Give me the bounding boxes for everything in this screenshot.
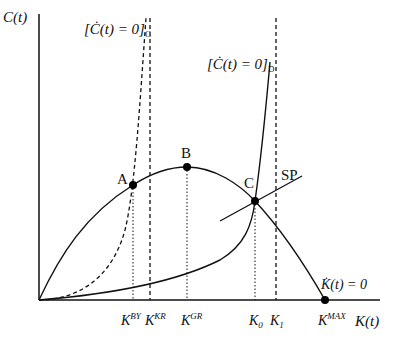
tick-k-max: KMAX xyxy=(317,311,346,328)
saddle-path-label: SP xyxy=(281,167,298,183)
c-dot-zero-c-label-sub: C xyxy=(145,29,151,39)
c-dot-zero-d-label-main: [Ċ(t) = 0] xyxy=(207,56,268,73)
point-c-label: C xyxy=(244,175,254,191)
tick-k1: K1 xyxy=(269,313,284,330)
point-c xyxy=(251,197,259,205)
c-dot-zero-d-curve xyxy=(39,62,270,300)
c-dot-zero-d-label: [Ċ(t) = 0]D xyxy=(207,56,275,74)
tick-k-gr: KGR xyxy=(180,311,203,328)
y-axis-label: C(t) xyxy=(3,9,27,26)
point-b xyxy=(183,163,191,171)
k-dot-zero-label: K̇(t) = 0 xyxy=(320,277,367,293)
point-b-label: B xyxy=(181,145,191,161)
point-a-label: A xyxy=(117,171,128,187)
tick-k-kr: KKR xyxy=(144,311,166,328)
x-axis-label: K(t) xyxy=(354,313,379,330)
tick-k-by: KBY xyxy=(120,311,142,328)
x-tick-labels: KBY KKR KGR K0 K1 KMAX xyxy=(120,311,346,330)
c-dot-zero-d-label-sub: D xyxy=(268,64,275,74)
tick-k0: K0 xyxy=(248,313,263,330)
c-dot-zero-c-label-main: [Ċ(t) = 0] xyxy=(84,21,145,38)
point-a xyxy=(129,181,137,189)
point-kmax xyxy=(321,296,329,304)
phase-diagram: C(t) K(t) A B C [Ċ(t) = 0]C [Ċ(t) = 0]D … xyxy=(0,0,402,340)
c-dot-zero-c-curve xyxy=(39,18,146,300)
c-dot-zero-c-label: [Ċ(t) = 0]C xyxy=(84,21,151,39)
